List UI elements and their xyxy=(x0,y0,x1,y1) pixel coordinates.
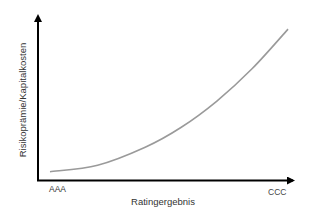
x-tick-aaa: AAA xyxy=(49,184,66,194)
x-tick-ccc: CCC xyxy=(268,187,286,197)
y-axis-label: Risikoprämie/Kapitalkosten xyxy=(17,43,28,158)
risk-premium-curve xyxy=(50,29,288,172)
chart-canvas xyxy=(0,0,310,220)
x-axis-label: Ratingergebnis xyxy=(131,196,195,207)
